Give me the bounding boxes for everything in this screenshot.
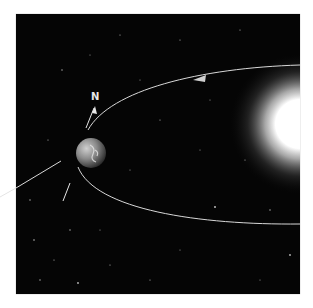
sun-glow [230,54,313,194]
ray-line [16,161,61,188]
earth-rotation-axis-bottom [63,183,70,201]
north-label: N [91,91,99,102]
earth-rotation-axis-top [86,108,94,128]
orbit-diagram [0,0,313,308]
ray-line-outside [0,188,16,197]
earth-globe [76,138,106,168]
